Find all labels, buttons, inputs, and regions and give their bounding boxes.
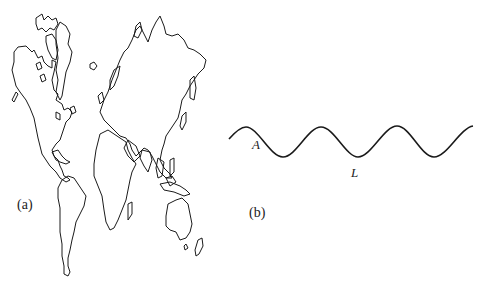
alaska-peninsula (12, 92, 18, 102)
africa-outline (94, 130, 136, 230)
greenland (56, 22, 72, 100)
wavelength-label: L (351, 166, 358, 179)
scandinavia (110, 66, 120, 90)
panel-b-label: (b) (249, 206, 265, 220)
wave-diagram (229, 126, 473, 157)
sine-wave (229, 126, 473, 157)
tasmania (184, 244, 188, 250)
novaya-zemlya (134, 22, 142, 38)
iceland (90, 62, 97, 70)
figure (0, 0, 485, 287)
gulf-coast (52, 150, 70, 164)
philippines (170, 158, 174, 176)
south-america-outline (58, 176, 86, 276)
kamchatka (190, 76, 196, 100)
great-lakes (56, 112, 60, 120)
australia-outline (166, 198, 192, 240)
india (140, 150, 152, 172)
madagascar (128, 202, 132, 220)
north-america-outline (12, 46, 72, 182)
indonesia (160, 182, 190, 196)
newfoundland (70, 106, 76, 114)
amplitude-label: A (252, 138, 260, 151)
new-zealand (195, 238, 203, 256)
hudson-island-2 (40, 74, 46, 82)
panel-a-label: (a) (17, 198, 33, 212)
world-map (12, 14, 206, 276)
japan (180, 112, 186, 130)
hudson-bay-islands (36, 62, 42, 70)
arctic-islands (36, 14, 58, 32)
